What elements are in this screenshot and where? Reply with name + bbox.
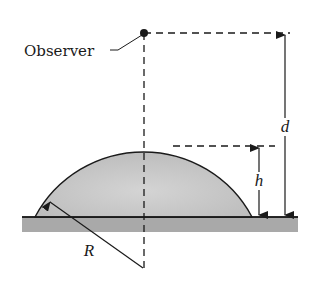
observer-leader-line [110, 35, 142, 50]
label-d: d [281, 117, 290, 136]
ground [22, 217, 298, 232]
label-R: R [83, 241, 95, 260]
observer-point [140, 29, 148, 37]
label-h: h [255, 171, 264, 190]
observer-dome-diagram: d h R Observer [0, 0, 316, 282]
label-observer: Observer [24, 42, 95, 60]
